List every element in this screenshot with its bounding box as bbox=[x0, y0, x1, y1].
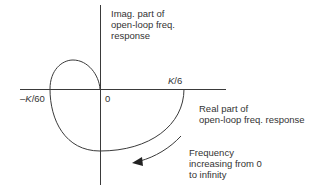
imaginary-label-line-1: Imag. part of bbox=[111, 8, 175, 19]
imaginary-axis-label: Imag. part of open-loop freq. response bbox=[111, 8, 175, 41]
annotation-line-1: Frequency bbox=[189, 147, 262, 158]
arrowhead-icon bbox=[132, 157, 143, 166]
negative-crossing-label: –K/60 bbox=[20, 93, 45, 104]
direction-arrow bbox=[140, 136, 181, 161]
real-label-line-1: Real part of bbox=[199, 103, 305, 114]
frequency-response-curve bbox=[50, 60, 184, 151]
negative-crossing-divisor: /60 bbox=[32, 93, 45, 104]
origin-label: 0 bbox=[105, 93, 110, 104]
frequency-annotation: Frequency increasing from 0 to infinity bbox=[189, 147, 262, 180]
imaginary-label-line-3: response bbox=[111, 30, 175, 41]
annotation-line-3: to infinity bbox=[189, 169, 262, 180]
positive-crossing-label: K/6 bbox=[168, 75, 182, 86]
real-label-line-2: open-loop freq. response bbox=[199, 114, 305, 125]
real-axis-label: Real part of open-loop freq. response bbox=[199, 103, 305, 125]
positive-crossing-divisor: /6 bbox=[174, 75, 182, 86]
annotation-line-2: increasing from 0 bbox=[189, 158, 262, 169]
imaginary-label-line-2: open-loop freq. bbox=[111, 19, 175, 30]
